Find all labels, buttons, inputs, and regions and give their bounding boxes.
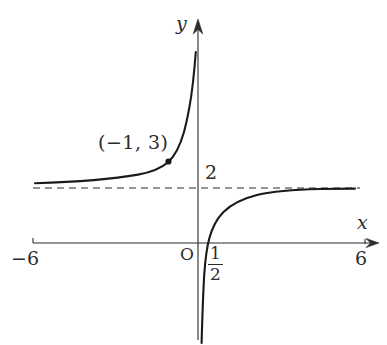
x-intercept-fraction-label: 1 2 xyxy=(208,245,223,284)
graph-figure: y x −6 6 O 2 (−1, 3) 1 2 xyxy=(0,0,387,345)
marked-point-label: (−1, 3) xyxy=(98,133,169,152)
x-axis-label: x xyxy=(357,213,368,232)
x-axis xyxy=(33,238,379,248)
marked-point-dot xyxy=(165,158,171,164)
curve-right-branch xyxy=(202,189,355,343)
origin-label: O xyxy=(180,246,194,263)
curve-left-branch xyxy=(35,52,196,183)
asymptote-value-label: 2 xyxy=(205,163,217,182)
x-intercept-denominator: 2 xyxy=(208,266,223,284)
coordinate-plot xyxy=(0,0,387,345)
x-axis-max-tick-label: 6 xyxy=(355,249,367,268)
x-axis-min-tick-label: −6 xyxy=(11,249,39,268)
x-intercept-numerator: 1 xyxy=(208,245,223,263)
y-axis-label: y xyxy=(176,14,187,33)
